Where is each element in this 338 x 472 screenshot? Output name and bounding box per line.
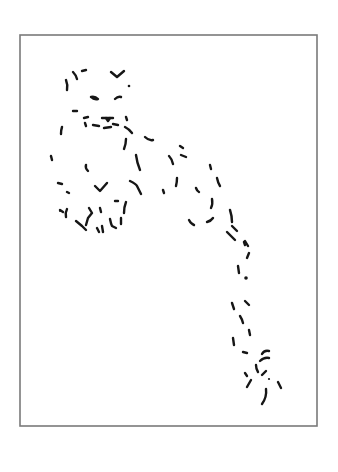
- ink-dash-stroke: [262, 389, 266, 404]
- ink-dash-stroke: [73, 72, 77, 79]
- ink-dot: [244, 276, 248, 280]
- ink-dash-stroke: [245, 301, 249, 305]
- tail-strokes: [232, 241, 250, 345]
- ink-dash-stroke: [256, 365, 258, 372]
- ink-dash-stroke: [100, 208, 101, 212]
- ink-dash-stroke: [232, 303, 234, 309]
- ink-dash-stroke: [230, 210, 232, 222]
- paw-strokes: [60, 201, 126, 232]
- haunch-strokes: [189, 199, 245, 245]
- ink-dash-stroke: [126, 117, 127, 120]
- ink-dash-stroke: [93, 125, 99, 126]
- ink-dash-stroke: [66, 80, 67, 90]
- ink-dot: [128, 85, 131, 88]
- ink-dash-stroke: [245, 373, 247, 376]
- ink-dash-stroke: [67, 192, 69, 193]
- ink-dash-stroke: [84, 117, 88, 118]
- ink-dash-stroke: [238, 266, 239, 273]
- ink-dash-stroke: [110, 219, 116, 228]
- picture-frame-border: [20, 35, 317, 426]
- muzzle-strokes: [84, 117, 132, 133]
- ink-dash-stroke: [51, 156, 52, 160]
- body-strokes: [51, 137, 220, 194]
- artwork-canvas: snow leopard dashed line drawing: [0, 0, 338, 472]
- ink-dash-stroke: [227, 232, 235, 240]
- ink-dash-stroke: [104, 127, 111, 128]
- ink-dash-stroke: [211, 199, 212, 208]
- ink-dash-stroke: [217, 178, 220, 186]
- ink-dash-stroke: [260, 358, 269, 361]
- ink-dash-stroke: [97, 228, 99, 232]
- ink-dash-stroke: [86, 165, 88, 171]
- ink-dash-stroke: [102, 226, 103, 232]
- ink-dash-stroke: [76, 221, 86, 230]
- ink-dash-stroke: [249, 330, 250, 335]
- ink-dash-stroke: [115, 97, 121, 99]
- ink-dash-stroke: [58, 183, 62, 184]
- ink-dash-stroke: [124, 139, 126, 149]
- ink-dash-stroke: [136, 155, 140, 170]
- ink-dash-stroke: [262, 371, 266, 375]
- ink-dot: [59, 210, 61, 212]
- ink-dash-stroke: [66, 209, 67, 217]
- ink-dash-stroke: [91, 97, 98, 100]
- ink-dot: [268, 378, 270, 380]
- ink-dash-stroke: [180, 146, 183, 148]
- ink-dash-stroke: [243, 352, 247, 353]
- ink-dash-stroke: [240, 316, 243, 323]
- ink-dash-stroke: [163, 190, 164, 193]
- ink-dash-stroke: [176, 178, 177, 186]
- ink-dash-stroke: [169, 156, 173, 164]
- ink-dash-stroke: [247, 380, 251, 387]
- ink-dash-stroke: [130, 181, 141, 194]
- ink-dash-stroke: [278, 382, 281, 388]
- ink-dash-stroke: [262, 351, 269, 354]
- ink-dash-stroke: [207, 218, 213, 222]
- ink-dash-stroke: [181, 155, 186, 157]
- spot-dots: [59, 85, 270, 380]
- ink-dash-stroke: [125, 127, 132, 133]
- ink-dash-stroke: [196, 188, 199, 192]
- ink-dash-stroke: [210, 165, 211, 169]
- ink-dash-stroke: [82, 70, 86, 71]
- ink-dash-stroke: [111, 71, 124, 77]
- tail-tip-strokes: [243, 351, 281, 404]
- ink-dash-stroke: [145, 137, 153, 140]
- ink-dash-stroke: [247, 253, 249, 258]
- ink-dash-stroke: [85, 123, 86, 126]
- ink-dash-stroke: [232, 226, 237, 231]
- ink-dash-stroke: [124, 202, 126, 213]
- ink-dash-stroke: [61, 127, 62, 134]
- ink-dash-stroke: [189, 220, 194, 225]
- ink-dash-stroke: [113, 124, 118, 125]
- ink-dash-stroke: [95, 183, 107, 191]
- ink-dash-stroke: [86, 208, 92, 225]
- snow-leopard-drawing: [0, 0, 338, 472]
- ink-dash-stroke: [233, 338, 234, 345]
